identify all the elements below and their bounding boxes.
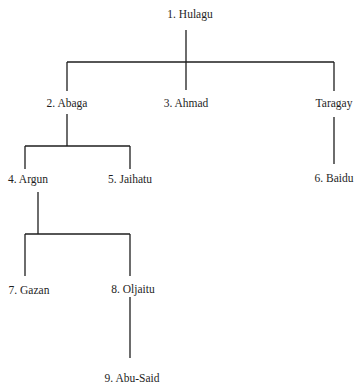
tree-connector-lines [0,0,363,391]
node-argun: 4. Argun [8,172,48,186]
node-taragay: Taragay [316,96,353,110]
node-ahmad: 3. Ahmad [164,96,209,110]
node-jaihatu: 5. Jaihatu [108,172,152,186]
node-gazan: 7. Gazan [9,283,50,297]
node-oljaitu: 8. Oljaitu [111,282,154,296]
node-baidu: 6. Baidu [315,171,354,185]
node-abu-said: 9. Abu-Said [105,371,160,385]
node-abaga: 2. Abaga [47,96,88,110]
node-hulagu: 1. Hulagu [167,7,212,21]
